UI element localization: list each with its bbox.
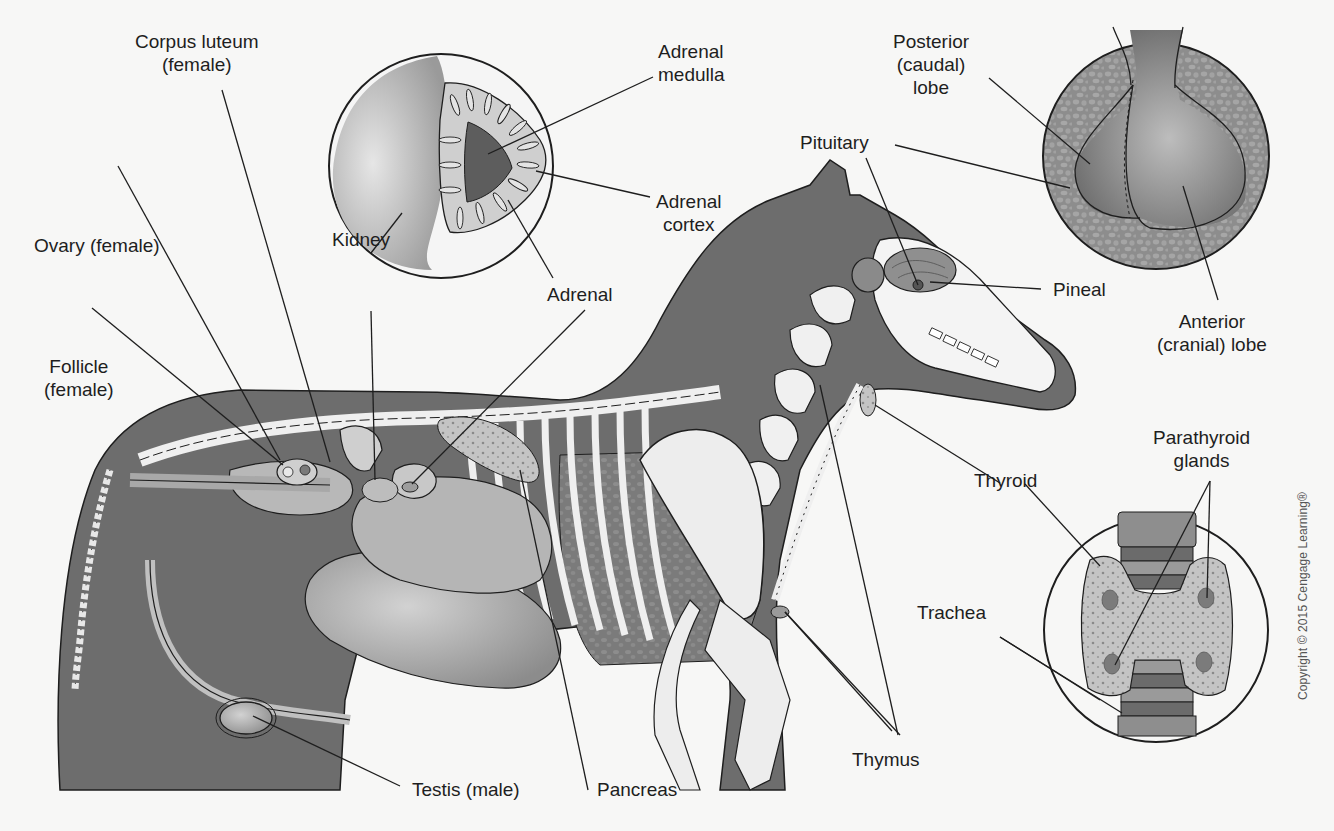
pituitary-inset	[1043, 27, 1269, 269]
label-line: (female)	[44, 378, 114, 401]
label-line: Adrenal	[656, 190, 722, 213]
label-line: Ovary (female)	[34, 234, 160, 257]
label-line: Follicle	[44, 355, 114, 378]
label-adrenal-medulla: Adrenal medulla	[658, 40, 725, 86]
thymus-gland	[771, 606, 789, 618]
label-line: (female)	[135, 53, 259, 76]
horse-endocrine-diagram	[0, 0, 1334, 831]
label-line: Pituitary	[800, 131, 869, 154]
follicle-structure	[283, 467, 293, 477]
label-line: Thyroid	[974, 469, 1037, 492]
label-thymus: Thymus	[852, 748, 920, 771]
label-adrenal-cortex: Adrenal cortex	[656, 190, 722, 236]
label-line: Posterior	[893, 30, 969, 53]
label-line: Pineal	[1053, 278, 1106, 301]
adrenal-structure	[402, 482, 418, 492]
kidney-structure	[362, 478, 398, 502]
horse-body	[58, 160, 1075, 790]
corpus-luteum-structure	[300, 465, 310, 475]
copyright-notice: Copyright © 2015 Cengage Learning®	[1296, 492, 1310, 700]
label-line: Corpus luteum	[135, 30, 259, 53]
label-thyroid: Thyroid	[974, 469, 1037, 492]
label-posterior-lobe: Posterior (caudal) lobe	[893, 30, 969, 99]
testis-structure	[220, 702, 272, 734]
label-corpus-luteum: Corpus luteum (female)	[135, 30, 259, 76]
label-line: Thymus	[852, 748, 920, 771]
label-line: (cranial) lobe	[1157, 333, 1267, 356]
label-line: medulla	[658, 63, 725, 86]
label-adrenal: Adrenal	[547, 283, 613, 306]
cerebellum	[852, 258, 884, 292]
label-pancreas: Pancreas	[597, 778, 677, 801]
label-ovary: Ovary (female)	[34, 234, 160, 257]
label-line: Pancreas	[597, 778, 677, 801]
label-pineal: Pineal	[1053, 278, 1106, 301]
label-pituitary: Pituitary	[800, 131, 869, 154]
label-line: (caudal)	[893, 53, 969, 76]
thyroid-inset	[1044, 512, 1268, 742]
label-line: Kidney	[332, 228, 390, 251]
label-kidney: Kidney	[332, 228, 390, 251]
label-line: lobe	[893, 76, 969, 99]
label-line: Adrenal	[658, 40, 725, 63]
label-line: Parathyroid	[1153, 426, 1250, 449]
label-line: cortex	[656, 213, 722, 236]
label-follicle: Follicle (female)	[44, 355, 114, 401]
thymus-leader	[785, 612, 900, 735]
label-testis: Testis (male)	[412, 778, 520, 801]
label-parathyroid: Parathyroid glands	[1153, 426, 1250, 472]
label-trachea: Trachea	[917, 601, 986, 624]
label-anterior-lobe: Anterior (cranial) lobe	[1157, 310, 1267, 356]
label-line: Testis (male)	[412, 778, 520, 801]
label-line: glands	[1153, 449, 1250, 472]
label-line: Anterior	[1157, 310, 1267, 333]
label-line: Adrenal	[547, 283, 613, 306]
label-line: Trachea	[917, 601, 986, 624]
